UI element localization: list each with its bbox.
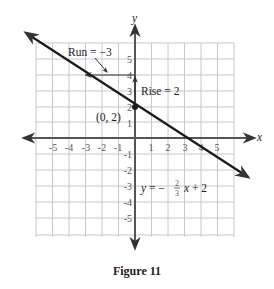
svg-text:2: 2 [127, 102, 132, 113]
coordinate-plane: x y -5 -4 -3 -2 -1 1 2 3 4 5 5 4 3 2 1 -… [0, 0, 274, 289]
x-axis-label: x [256, 131, 263, 143]
equation-label: y = − 2 3 x + 2 [140, 179, 207, 198]
svg-text:2: 2 [175, 179, 179, 188]
figure-caption: Figure 11 [0, 264, 274, 279]
svg-text:-4: -4 [124, 197, 132, 208]
svg-text:3: 3 [183, 142, 188, 153]
svg-text:1: 1 [149, 142, 154, 153]
svg-text:-2: -2 [124, 165, 132, 176]
svg-text:x + 2: x + 2 [183, 182, 207, 194]
svg-text:-3: -3 [124, 181, 132, 192]
run-pointer [95, 58, 107, 72]
svg-text:-2: -2 [98, 142, 106, 153]
svg-text:-1: -1 [124, 149, 132, 160]
run-label: Run = −3 [68, 46, 112, 58]
svg-text:2: 2 [166, 142, 171, 153]
svg-text:3: 3 [175, 189, 179, 198]
y-axis-label: y [131, 12, 138, 25]
svg-text:1: 1 [127, 118, 132, 129]
svg-text:-1: -1 [114, 142, 122, 153]
rise-label: Rise = 2 [141, 85, 180, 97]
svg-text:3: 3 [127, 86, 132, 97]
y-intercept-point [132, 104, 138, 110]
svg-text:-3: -3 [82, 142, 90, 153]
svg-text:5: 5 [127, 54, 132, 65]
svg-text:5: 5 [215, 142, 220, 153]
svg-text:-5: -5 [49, 142, 57, 153]
svg-text:-4: -4 [65, 142, 73, 153]
svg-text:-5: -5 [124, 213, 132, 224]
svg-text:y = −: y = − [140, 182, 165, 195]
point-label: (0, 2) [96, 111, 121, 124]
